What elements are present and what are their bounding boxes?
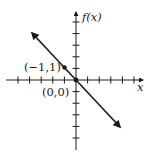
function-graph: x f(x) (−1,1) (0,0) <box>0 0 148 155</box>
x-axis-label: x <box>137 80 144 94</box>
point-origin-label: (0,0) <box>42 85 69 99</box>
y-axis-label: f(x) <box>81 10 102 24</box>
point-neg1-1 <box>62 65 66 69</box>
graph-canvas: x f(x) (−1,1) (0,0) <box>0 0 148 155</box>
point-origin <box>74 78 79 83</box>
point-neg1-1-label: (−1,1) <box>24 60 61 74</box>
